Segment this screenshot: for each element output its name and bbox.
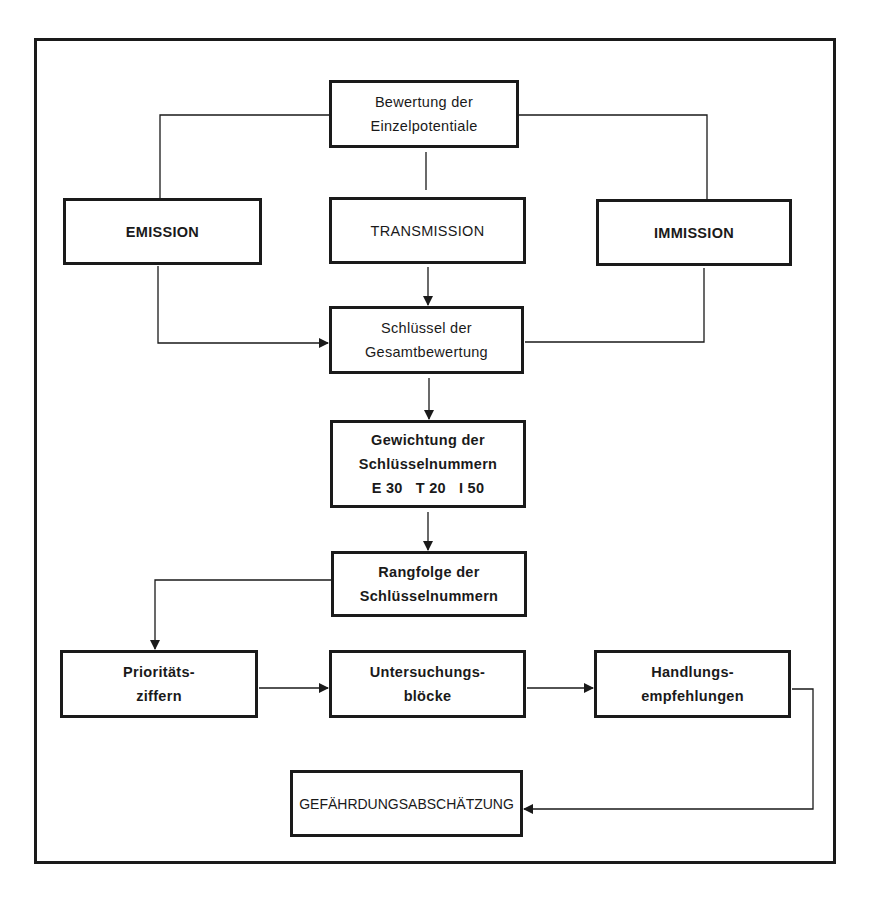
node-label-line: Rangfolge der — [378, 560, 479, 584]
edge-bewertung-immission — [519, 115, 707, 199]
node-weights-line: E 30 T 20 I 50 — [372, 476, 485, 500]
node-label-line: blöcke — [404, 684, 452, 708]
node-label-line: Gesamtbewertung — [365, 340, 488, 364]
edge-immission-schluessel — [525, 268, 704, 342]
node-untersuchungsbloecke: Untersuchungs- blöcke — [329, 650, 526, 718]
node-prioritaetsziffern: Prioritäts- ziffern — [60, 650, 258, 718]
node-label-line: Handlungs- — [651, 660, 734, 684]
node-schluessel-der-gesamtbewertung: Schlüssel der Gesamtbewertung — [329, 306, 524, 374]
node-rangfolge-der-schluesselnummern: Rangfolge der Schlüsselnummern — [331, 551, 527, 617]
node-emission: EMISSION — [63, 198, 262, 265]
node-transmission: TRANSMISSION — [329, 197, 526, 264]
node-label-line: TRANSMISSION — [371, 219, 485, 243]
node-label-line: Schlüsselnummern — [359, 452, 498, 476]
node-label-line: Untersuchungs- — [370, 660, 485, 684]
node-label-line: Schlüsselnummern — [360, 584, 499, 608]
node-label-line: GEFÄHRDUNGSABSCHÄTZUNG — [299, 792, 514, 816]
node-label-line: EMISSION — [126, 220, 199, 244]
node-label-line: empfehlungen — [641, 684, 744, 708]
node-gewichtung-der-schluesselnummern: Gewichtung der Schlüsselnummern E 30 T 2… — [330, 420, 526, 508]
edge-bewertung-emission — [160, 115, 329, 198]
node-label-line: Bewertung der — [375, 90, 473, 114]
node-label-line: Prioritäts- — [123, 660, 195, 684]
edge-emission-schluessel — [158, 266, 328, 343]
edge-rangfolge-prioritaet — [155, 580, 331, 649]
node-label-line: ziffern — [136, 684, 182, 708]
node-gefaehrdungsabschaetzung: GEFÄHRDUNGSABSCHÄTZUNG — [290, 770, 523, 837]
node-label-line: IMMISSION — [654, 221, 734, 245]
node-label-line: Einzelpotentiale — [370, 114, 477, 138]
node-immission: IMMISSION — [596, 199, 792, 266]
node-label-line: Gewichtung der — [371, 428, 485, 452]
node-label-line: Schlüssel der — [381, 316, 472, 340]
node-handlungsempfehlungen: Handlungs- empfehlungen — [594, 650, 791, 718]
node-bewertung-der-einzelpotentiale: Bewertung der Einzelpotentiale — [329, 80, 519, 148]
